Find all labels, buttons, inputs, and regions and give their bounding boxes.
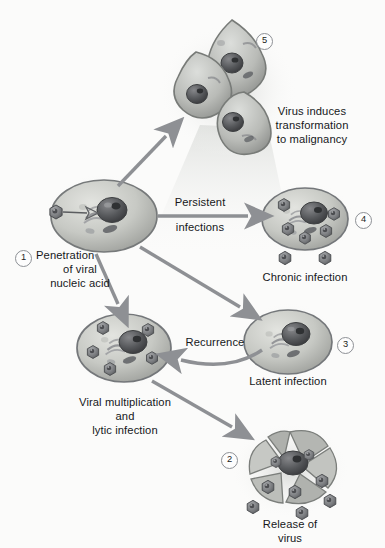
multiplication-label-line3: lytic infection xyxy=(55,424,195,438)
step-label-2-line2: virus xyxy=(230,532,350,546)
step-number-3: 3 xyxy=(337,337,354,354)
step-label-3: Latent infection xyxy=(228,375,348,389)
pathway-label-persistent-1: Persistent xyxy=(155,196,245,210)
multiplication-label-line1: Viral multiplication xyxy=(55,396,195,410)
step-label-4: Chronic infection xyxy=(245,271,365,285)
step-number-5: 5 xyxy=(256,33,273,50)
step-label-5-line3: to malignancy xyxy=(252,133,372,147)
arrow-host-to-transformed xyxy=(118,136,166,186)
step-number-2: 2 xyxy=(221,452,238,469)
pathway-label-recurrence: Recurrence xyxy=(170,336,260,350)
step-label-2-line1: Release of xyxy=(230,518,350,532)
lysed-cell xyxy=(228,420,352,520)
multiplication-label-line2: and xyxy=(55,410,195,424)
attached-virion xyxy=(50,205,62,219)
step-label-5-line2: transformation xyxy=(252,119,372,133)
step-label-1-line1: Penetration xyxy=(36,249,94,263)
step-label-1-line2: of viral xyxy=(20,263,140,277)
pathway-label-persistent-2: infections xyxy=(155,221,245,235)
diagram-canvas: 1 Penetration of viral nucleic acid 5 Vi… xyxy=(0,0,385,548)
step-label-1-line3: nucleic acid xyxy=(20,277,140,291)
step-label-5-line1: Virus induces xyxy=(252,105,372,119)
step-number-4: 4 xyxy=(355,212,372,229)
host-cell xyxy=(41,171,165,259)
multiplying-cell xyxy=(68,304,180,392)
